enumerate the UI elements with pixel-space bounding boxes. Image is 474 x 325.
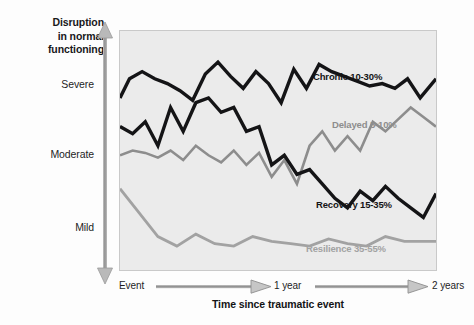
series-label-chronic: Chronic 10-30% — [313, 71, 382, 82]
y-tick-moderate: Moderate — [10, 148, 94, 160]
y-axis-tick-labels: Severe Moderate Mild — [6, 0, 94, 325]
series-label-delayed: Delayed 5-10% — [332, 119, 397, 130]
x-axis: Event 1 year 2 years — [119, 278, 474, 296]
y-tick-mild: Mild — [10, 221, 94, 233]
series-label-resilience: Resilience 35-55% — [306, 243, 386, 254]
y-tick-severe: Severe — [10, 78, 94, 90]
series-line-resilience — [120, 189, 436, 246]
series-canvas — [120, 31, 436, 270]
x-tick-2-years: 2 years — [432, 280, 464, 291]
x-tick-1-year: 1 year — [274, 280, 301, 291]
series-label-recovery: Recovery 15-35% — [316, 199, 392, 210]
trauma-response-trajectory-chart: Disruption in normal functioning Severe … — [0, 0, 474, 325]
series-line-chronic — [120, 62, 436, 103]
x-axis-title: Time since traumatic event — [119, 298, 437, 310]
y-axis-arrow-icon — [97, 22, 113, 284]
plot-area: Chronic 10-30% Delayed 5-10% Recovery 15… — [119, 30, 437, 271]
x-tick-event: Event — [119, 280, 144, 291]
